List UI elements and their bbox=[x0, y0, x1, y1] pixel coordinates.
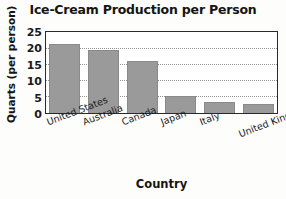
bar bbox=[204, 102, 235, 113]
chart-figure: Ice-Cream Production per Person Quarts (… bbox=[0, 0, 286, 199]
y-axis-title: Quarts (per person) bbox=[5, 13, 17, 123]
y-tick-label: 10 bbox=[20, 76, 42, 87]
plot-area bbox=[45, 31, 278, 114]
y-axis-tick-labels: 25 20 15 10 5 0 bbox=[17, 0, 42, 199]
bar-series bbox=[46, 32, 277, 113]
y-tick-label: 25 bbox=[20, 27, 42, 38]
x-axis-tick-labels: United StatesAustraliaCanadaJapanItalyUn… bbox=[45, 114, 278, 174]
bar bbox=[243, 104, 274, 113]
y-tick-label: 5 bbox=[20, 93, 42, 104]
x-axis-title: Country bbox=[45, 177, 278, 191]
y-tick-label: 0 bbox=[20, 109, 42, 120]
y-tick-label: 20 bbox=[20, 43, 42, 54]
bar bbox=[49, 44, 80, 113]
chart-title: Ice-Cream Production per Person bbox=[0, 2, 286, 17]
y-tick-label: 15 bbox=[20, 60, 42, 71]
